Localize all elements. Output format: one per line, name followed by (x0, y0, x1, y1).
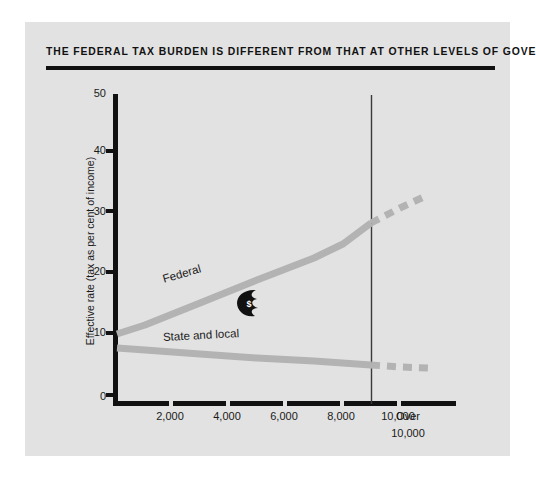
x-tick-label-over-line1: Over (373, 410, 443, 422)
chart-figure: THE FEDERAL TAX BURDEN IS DIFFERENT FROM… (0, 0, 536, 481)
plot-area (0, 0, 536, 481)
dollar-coin-icon: $ (236, 288, 262, 318)
x-axis (113, 401, 456, 406)
federal-series-projection (371, 195, 428, 223)
y-axis-title: Effective rate (tax as per cent of incom… (84, 146, 96, 356)
state-local-series-projection (371, 365, 428, 368)
x-tick-label-over-line2: 10,000 (373, 427, 443, 439)
y-tick-label-50: 50 (82, 87, 106, 99)
y-tick-label-0: 0 (82, 390, 106, 402)
dollar-sign-glyph: $ (246, 299, 251, 309)
y-axis (106, 94, 118, 406)
state-local-series-line (117, 348, 371, 365)
